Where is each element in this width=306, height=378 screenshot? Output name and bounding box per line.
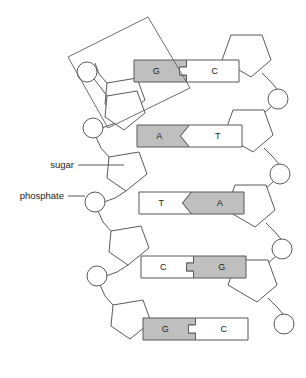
base-pair-rung: GC	[143, 318, 248, 340]
base-letter-left: G	[162, 324, 169, 334]
right-phosphate-circle-3	[272, 239, 292, 259]
base-block-right	[183, 192, 245, 214]
base-pair-rung: GC	[134, 60, 239, 82]
right-backbone-link-7	[268, 298, 283, 314]
right-backbone-link-5	[266, 223, 281, 239]
base-letter-right: T	[215, 131, 221, 141]
right-phosphate-circle-4	[274, 314, 294, 334]
left-backbone-link-4	[98, 211, 111, 231]
base-block-left	[141, 256, 194, 278]
left-sugar-pentagon-2	[107, 152, 147, 191]
left-phosphate-circle-3	[85, 192, 105, 212]
base-block-right	[181, 125, 243, 147]
right-phosphate-circle-1	[268, 89, 288, 109]
base-letter-left: T	[159, 198, 165, 208]
left-backbone-link-5	[106, 265, 128, 276]
sugar-label: sugar	[50, 159, 74, 170]
base-block-right	[180, 60, 240, 82]
base-letter-right: C	[212, 66, 219, 76]
base-pair-rungs: GCATTACGGC	[134, 60, 248, 340]
base-block-right	[187, 256, 247, 278]
base-pair-rung: AT	[137, 125, 242, 147]
left-phosphate-circle-4	[87, 266, 107, 286]
phosphate-label: phosphate	[20, 190, 64, 201]
base-block-left	[143, 318, 196, 340]
right-backbone-link-1	[262, 73, 277, 89]
left-backbone-link-6	[100, 285, 113, 305]
base-block-right	[189, 318, 249, 340]
base-block-left	[134, 60, 187, 82]
base-letter-right: G	[218, 262, 225, 272]
dna-structure-diagram: GCATTACGGC sugar phosphate	[0, 0, 306, 378]
callout-phosphate: phosphate	[20, 190, 85, 201]
right-backbone-link-3	[264, 148, 279, 164]
phosphate-circle	[83, 118, 103, 138]
left-backbone-link-3	[104, 191, 126, 202]
left-backbone-link-2	[96, 137, 109, 157]
base-pair-rung: TA	[139, 192, 244, 214]
base-letter-left: C	[160, 262, 167, 272]
base-letter-right: C	[221, 324, 228, 334]
right-phosphate-circle-2	[270, 164, 290, 184]
left-sugar-pentagon-1	[105, 91, 145, 130]
base-letter-right: A	[217, 198, 223, 208]
base-letter-left: A	[156, 131, 162, 141]
base-letter-left: G	[153, 66, 160, 76]
base-pair-rung: CG	[141, 256, 246, 278]
dna-diagram-svg: GCATTACGGC sugar phosphate	[0, 0, 306, 378]
